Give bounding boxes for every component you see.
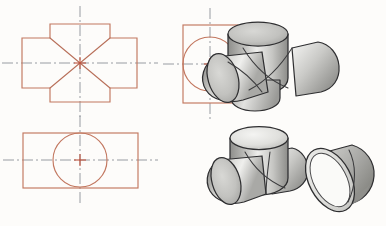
exploded-tee-vertical-face: [230, 127, 288, 150]
pictorial-assembled-cross: [202, 22, 339, 111]
top-view-rect-circle: [3, 116, 158, 206]
front-view-seam-lower-right: [80, 63, 110, 88]
front-view-seam-upper-left: [50, 38, 80, 63]
front-view-seam-upper-right: [80, 38, 110, 63]
orthographic-views-layer: [0, 0, 386, 226]
front-view-seam-lower-left: [50, 63, 80, 88]
pictorial-exploded-cross: [206, 127, 374, 220]
assembled-right-stub: [292, 42, 339, 96]
front-view-cross: [2, 6, 158, 120]
assembled-top-cylinder-face: [228, 22, 288, 46]
drawing-sheet: Front view - cross shape Side view - rec…: [0, 0, 386, 226]
